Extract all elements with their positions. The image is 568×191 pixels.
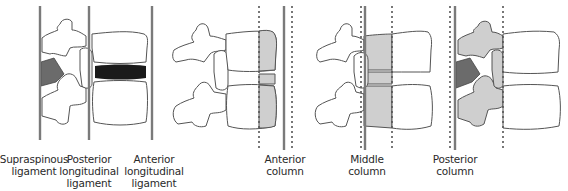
vertebral-body-upper (503, 31, 559, 73)
label-posterior-column: Posterior column (433, 153, 478, 177)
panel-posterior-column (450, 6, 560, 150)
label-supraspinous-ligament: Supraspinous ligament (0, 153, 68, 177)
posterior-process-upper (42, 19, 86, 56)
anterior-column-shade-upper (259, 30, 277, 71)
posterior-process-lower (315, 82, 364, 127)
vertebral-body-lower (503, 85, 560, 130)
label-middle-column: Middle column (348, 153, 385, 177)
anterior-column-shade-disc (259, 74, 275, 84)
panel-anterior-column (173, 6, 292, 150)
pedicle-shade (492, 50, 503, 88)
pedicle (214, 51, 228, 91)
label-posterior-longitudinal-ligament: Posterior longitudinal ligament (59, 153, 119, 189)
middle-column-shade-lower (364, 86, 392, 128)
label-anterior-column: Anterior column (265, 153, 306, 177)
intervertebral-disc (95, 65, 146, 80)
vertebral-body-upper (392, 31, 432, 72)
panel-middle-column (315, 6, 432, 150)
panel-ligaments (40, 6, 152, 140)
label-anterior-longitudinal-ligament: Anterior longitudinal ligament (124, 153, 184, 189)
vertebral-body-lower (392, 85, 432, 130)
anterior-column-shade-lower (259, 85, 276, 128)
vertebral-body-upper (92, 32, 148, 64)
vertebral-body-lower (93, 81, 148, 126)
